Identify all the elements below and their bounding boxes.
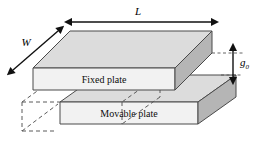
figure-container: Movable plate Fixed plate L W — [0, 0, 259, 146]
gap-dimension: g0 — [212, 51, 250, 77]
movable-plate-label: Movable plate — [100, 108, 158, 119]
length-label: L — [134, 5, 141, 17]
parallel-plate-diagram: Movable plate Fixed plate L W — [0, 0, 259, 146]
gap-label: g0 — [240, 56, 250, 71]
fixed-plate-label: Fixed plate — [82, 74, 127, 85]
width-label: W — [21, 36, 31, 48]
length-dimension: L — [72, 5, 211, 22]
gap-label-subscript: 0 — [246, 63, 250, 71]
movable-plate-hidden-diagonal-lower — [22, 104, 58, 131]
